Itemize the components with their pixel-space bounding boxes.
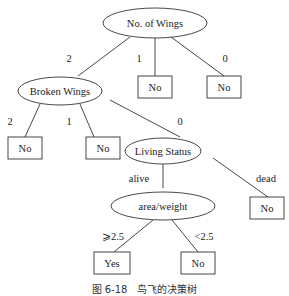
- edge-label-wings-1: 1: [136, 53, 141, 64]
- edge-label-ge-2-5: ⩾2.5: [102, 231, 124, 242]
- leaf-label: No: [218, 82, 231, 93]
- edge-label-wings-0: 0: [222, 53, 227, 64]
- node-label: Living Status: [135, 146, 191, 157]
- leaf-dead: No: [250, 197, 284, 219]
- node-label: No. of Wings: [127, 18, 183, 29]
- leaf-label: No: [19, 143, 32, 154]
- leaf-broken-2: No: [8, 137, 42, 159]
- edge-label-wings-2: 2: [66, 53, 71, 64]
- edge-label-dead: dead: [256, 173, 277, 184]
- node-broken-wings: Broken Wings: [18, 77, 102, 105]
- leaf-label: Yes: [104, 258, 119, 269]
- edge-label-broken-2: 2: [7, 116, 12, 127]
- node-label: Broken Wings: [30, 86, 90, 97]
- leaf-label: No: [192, 258, 205, 269]
- node-living-status: Living Status: [125, 138, 201, 164]
- node-label: area/weight: [139, 201, 188, 212]
- edge-label-alive: alive: [129, 173, 150, 184]
- leaf-wings-0: No: [207, 76, 241, 98]
- node-area-weight: area/weight: [111, 192, 215, 220]
- edge-label-broken-0: 0: [177, 116, 182, 127]
- edge-label-lt-2-5: <2.5: [194, 231, 213, 242]
- node-no-of-wings: No. of Wings: [103, 8, 207, 38]
- leaf-lt-2-5: No: [181, 252, 215, 274]
- figure-caption: 图 6-18 鸟飞的决策树: [0, 281, 289, 296]
- leaf-wings-1: No: [138, 76, 172, 98]
- leaf-ge-2-5: Yes: [94, 252, 130, 274]
- leaf-label: No: [149, 82, 162, 93]
- leaf-label: No: [261, 203, 274, 214]
- leaf-broken-1: No: [86, 137, 120, 159]
- edge-label-broken-1: 1: [66, 116, 71, 127]
- leaf-label: No: [97, 143, 110, 154]
